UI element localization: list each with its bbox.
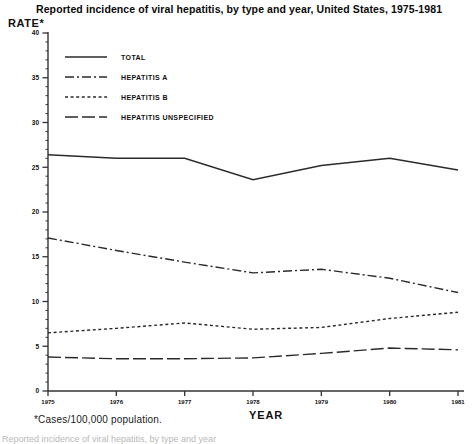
legend-label-hepatitis-a: HEPATITIS A: [121, 74, 168, 81]
y-tick-label: 25: [32, 164, 40, 171]
x-tick-label: 1980: [383, 399, 397, 405]
y-tick-label: 20: [32, 208, 40, 215]
x-tick-label: 1975: [41, 399, 55, 405]
series-line-hepatitis-a: [48, 238, 458, 293]
x-tick-label: 1979: [315, 399, 329, 405]
y-tick-label: 15: [32, 253, 40, 260]
y-tick-label: 5: [35, 343, 39, 350]
legend-label-total: TOTAL: [121, 54, 146, 61]
series-line-hepatitis-unspecified: [48, 348, 458, 359]
series-line-hepatitis-b: [48, 312, 458, 333]
y-tick-label: 35: [32, 74, 40, 81]
y-tick-label: 30: [32, 119, 40, 126]
legend-label-hepatitis-b: HEPATITIS B: [121, 94, 168, 101]
y-tick-label: 40: [32, 29, 40, 36]
x-tick-label: 1981: [451, 399, 465, 405]
series-line-total: [48, 155, 458, 180]
chart-plot: 0510152025303540197519761977197819791980…: [0, 0, 472, 444]
y-tick-label: 0: [35, 387, 39, 394]
x-tick-label: 1977: [178, 399, 192, 405]
legend-label-hepatitis-unspecified: HEPATITIS UNSPECIFIED: [121, 114, 214, 121]
figure-root: Reported incidence of viral hepatitis, b…: [0, 0, 472, 444]
y-tick-label: 10: [32, 298, 40, 305]
x-tick-label: 1978: [246, 399, 260, 405]
x-tick-label: 1976: [110, 399, 124, 405]
